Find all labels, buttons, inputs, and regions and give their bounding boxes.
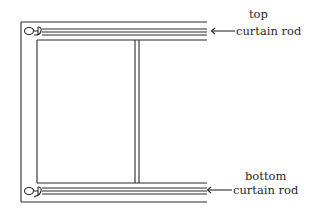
top-rod-label-line2: curtain rod <box>236 25 301 38</box>
finial-icon <box>25 27 42 35</box>
window-mullion <box>135 40 139 183</box>
window-pane <box>37 40 207 183</box>
bottom-curtain-rod <box>42 188 207 194</box>
bottom-rod-label-line1: bottom <box>245 170 286 183</box>
finial-icon <box>25 187 42 197</box>
bottom-rod-label-line2: curtain rod <box>233 184 298 197</box>
arrow-left-icon <box>212 28 236 34</box>
arrow-left-icon <box>208 187 233 193</box>
top-rod-label-line1: top <box>249 8 268 21</box>
top-curtain-rod <box>42 29 207 35</box>
window-frame <box>21 22 207 202</box>
